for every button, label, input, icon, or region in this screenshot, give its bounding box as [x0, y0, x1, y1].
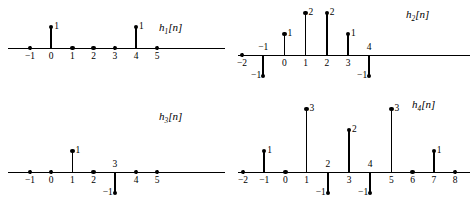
- sample-dot-h2-n0: [282, 32, 286, 36]
- sample-dot-h2-n4: [367, 74, 371, 78]
- sample-dot-h4-n4: [368, 191, 372, 195]
- axis-line-h3: [8, 172, 225, 173]
- value-label-h4-n1: 3: [310, 103, 315, 113]
- sample-dot-h2-n2: [325, 11, 329, 15]
- sample-dot-h3-n4: [134, 170, 138, 174]
- tick-label-h4-n2: 2: [318, 159, 338, 169]
- value-label-h2-n2: 2: [330, 7, 335, 17]
- plot-title-h4-arg: [n]: [421, 98, 435, 110]
- tick-label-h2-n2: 2: [317, 58, 337, 68]
- tick-label-h4-n-1: −1: [254, 175, 274, 185]
- tick-label-h3-n5: 5: [147, 175, 167, 185]
- value-label-h2-n0: 1: [287, 28, 292, 38]
- tick-label-h1-n1: 1: [62, 51, 82, 61]
- stem-h3-n3: [114, 172, 116, 193]
- tick-label-h1-n3: 3: [105, 51, 125, 61]
- value-label-h4-n2: −1: [315, 187, 326, 197]
- sample-dot-h1-n3: [113, 46, 117, 50]
- stem-h1-n4: [135, 27, 137, 48]
- tick-label-h4-n4: 4: [360, 159, 380, 169]
- tick-label-h3-n2: 2: [84, 175, 104, 185]
- sample-dot-h3-n-1: [28, 170, 32, 174]
- sample-dot-h4-n-1: [262, 149, 266, 153]
- sample-dot-h1-n2: [91, 46, 95, 50]
- sample-dot-h3-n1: [70, 149, 74, 153]
- value-label-h4-n3: 2: [352, 124, 357, 134]
- stem-h4-n-1: [263, 151, 265, 172]
- tick-label-h3-n-1: −1: [20, 175, 40, 185]
- sample-dot-h4-n0: [283, 170, 287, 174]
- tick-label-h4-n6: 6: [403, 175, 423, 185]
- plot-title-h1-arg: [n]: [168, 21, 182, 33]
- stem-h2-n2: [326, 13, 328, 55]
- tick-label-h4-n0: 0: [275, 175, 295, 185]
- sample-dot-h1-n5: [155, 46, 159, 50]
- value-label-h2-n4: −1: [356, 70, 367, 80]
- stem-h4-n2: [327, 172, 329, 193]
- sample-dot-h4-n1: [304, 107, 308, 111]
- tick-label-h2-n1: 1: [296, 58, 316, 68]
- sample-dot-h3-n5: [155, 170, 159, 174]
- sample-dot-h1-n0: [49, 25, 53, 29]
- stem-h2-n4: [368, 55, 370, 76]
- tick-label-h1-n-1: −1: [20, 51, 40, 61]
- stem-h4-n7: [433, 151, 435, 172]
- impulse-response-figure: −101123415 h1[n] −2−1−1011222314−1 h2[n]…: [0, 0, 474, 215]
- axis-line-h4: [238, 172, 470, 173]
- axis-line-h2: [238, 55, 470, 56]
- stem-h4-n5: [391, 109, 393, 172]
- tick-label-h3-n3: 3: [105, 159, 125, 169]
- value-label-h1-n4: 1: [139, 21, 144, 31]
- sample-dot-h1-n-1: [28, 46, 32, 50]
- stem-h2-n-1: [262, 55, 264, 76]
- value-label-h3-n3: −1: [102, 187, 113, 197]
- tick-label-h3-n0: 0: [41, 175, 61, 185]
- plot-title-h1: h1[n]: [159, 21, 182, 36]
- value-label-h4-n5: 3: [394, 103, 399, 113]
- value-label-h4-n-1: 1: [267, 145, 272, 155]
- sample-dot-h2-n3: [346, 32, 350, 36]
- stem-h2-n0: [284, 34, 286, 55]
- tick-label-h1-n2: 2: [84, 51, 104, 61]
- tick-label-h1-n0: 0: [41, 51, 61, 61]
- tick-label-h4-n-2: −2: [233, 175, 253, 185]
- sample-dot-h4-n5: [389, 107, 393, 111]
- plot-title-h3-arg: [n]: [168, 110, 182, 122]
- value-label-h3-n1: 1: [75, 145, 80, 155]
- plot-h3: −101123−145: [0, 108, 237, 215]
- sample-dot-h3-n0: [49, 170, 53, 174]
- sample-dot-h4-n3: [347, 128, 351, 132]
- sample-dot-h4-n7: [432, 149, 436, 153]
- sample-dot-h1-n4: [134, 25, 138, 29]
- tick-label-h4-n7: 7: [424, 175, 444, 185]
- stem-h2-n3: [347, 34, 349, 55]
- sample-dot-h1-n1: [70, 46, 74, 50]
- sample-dot-h4-n-2: [241, 170, 245, 174]
- plot-title-h2: h2[n]: [406, 8, 429, 23]
- tick-label-h2-n0: 0: [274, 58, 294, 68]
- tick-label-h2-n-2: −2: [232, 58, 252, 68]
- tick-label-h4-n3: 3: [339, 175, 359, 185]
- tick-label-h3-n1: 1: [62, 175, 82, 185]
- tick-label-h2-n3: 3: [338, 58, 358, 68]
- tick-label-h2-n-1: −1: [253, 42, 273, 52]
- stem-h1-n0: [50, 27, 52, 48]
- tick-label-h3-n4: 4: [126, 175, 146, 185]
- value-label-h1-n0: 1: [54, 21, 59, 31]
- plot-h2: −2−1−1011222314−1: [237, 0, 474, 108]
- sample-dot-h2-n-2: [240, 53, 244, 57]
- tick-label-h1-n5: 5: [147, 51, 167, 61]
- stem-h2-n1: [305, 13, 307, 55]
- sample-dot-h4-n6: [410, 170, 414, 174]
- plot-title-h3: h3[n]: [159, 110, 182, 125]
- sample-dot-h4-n2: [326, 191, 330, 195]
- stem-h3-n1: [72, 151, 74, 172]
- value-label-h2-n-1: −1: [250, 70, 261, 80]
- tick-label-h1-n4: 4: [126, 51, 146, 61]
- tick-label-h4-n8: 8: [445, 175, 465, 185]
- sample-dot-h3-n2: [91, 170, 95, 174]
- tick-label-h2-n4: 4: [359, 42, 379, 52]
- tick-label-h4-n5: 5: [381, 175, 401, 185]
- sample-dot-h3-n3: [113, 191, 117, 195]
- stem-h4-n4: [369, 172, 371, 193]
